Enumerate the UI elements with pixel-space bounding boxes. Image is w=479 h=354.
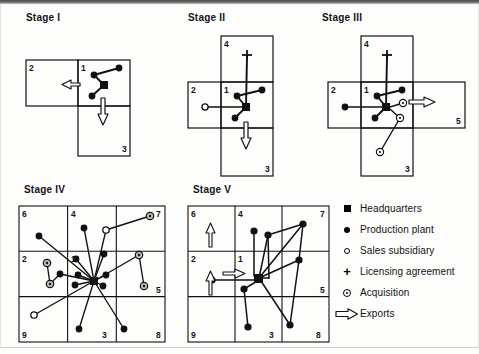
stage-3-plant-a <box>399 87 406 94</box>
stage-1-plant-c <box>89 93 96 100</box>
stage-3-plant-d <box>342 104 349 111</box>
stage-3-headquarters <box>382 103 390 111</box>
stage-5-panel: Stage V 6 4 7 2 1 5 9 3 8 <box>183 184 343 352</box>
stage-1-cell-2: 2 <box>29 63 34 73</box>
stage-4-acquisition-d <box>43 259 50 266</box>
stage-5-cell-8: 8 <box>316 330 321 340</box>
stage-5-cell-3: 3 <box>269 330 274 340</box>
stage-2-plant-a <box>259 87 266 94</box>
stage-5-title: Stage V <box>193 184 231 195</box>
stage-2-cell-1: 1 <box>224 85 229 95</box>
stage-4-links <box>34 216 150 329</box>
acquisition-icon <box>334 289 360 297</box>
figure-canvas: Stage I 2 1 3 <box>0 0 479 354</box>
stage-2-cell-4: 4 <box>224 39 229 49</box>
legend-item-licensing-agreement: + Licensing agreement <box>334 261 479 282</box>
stage-3-acquisition-c <box>376 148 383 155</box>
stage-5-plant-a <box>250 227 257 234</box>
stage-4-sales-subsidiary-b <box>31 312 37 318</box>
stage-4-plant-i <box>72 282 79 289</box>
stage-4-plant-j <box>76 326 83 333</box>
stage-3-cell-4: 4 <box>364 39 369 49</box>
stage-3-cell-3: 3 <box>405 164 410 174</box>
stage-5-plant-g <box>244 323 251 330</box>
stage-4-plant-h <box>75 272 82 279</box>
stage-2-plant-c <box>232 115 239 122</box>
stage-4-plant-a <box>81 225 88 232</box>
stage-3-plant-c <box>372 115 379 122</box>
legend-label-sales-subsidiary: Sales subsidiary <box>360 245 434 256</box>
stage-4-cell-2: 2 <box>22 254 27 264</box>
stage-1-plant-a <box>116 65 123 72</box>
stage-5-cell-6: 6 <box>191 209 196 219</box>
stage-5-cell-1: 1 <box>238 254 243 264</box>
stage-5-plant-c <box>299 220 306 227</box>
legend: Headquarters Production plant Sales subs… <box>334 198 479 324</box>
stage-5-diagram: 6 4 7 2 1 5 9 3 8 <box>183 202 343 352</box>
stage-4-acquisition-e <box>46 280 53 287</box>
stage-5-plant-d <box>295 256 302 263</box>
sales-subsidiary-icon <box>334 248 360 254</box>
stage-4-acquisition-c <box>140 282 147 289</box>
stage-5-cell-7: 7 <box>320 209 325 219</box>
stage-2-title: Stage II <box>188 12 225 23</box>
stage-4-plant-f <box>103 272 110 279</box>
stage-2-licensing-plus <box>242 50 252 60</box>
stage-3-diagram: 4 2 1 5 3 <box>310 30 475 182</box>
stage-4-acquisition-a <box>146 212 153 219</box>
stage-2-cell-2: 2 <box>191 85 196 95</box>
stage-1-headquarters <box>100 81 108 89</box>
stage-5-export-right <box>223 269 245 278</box>
stage-4-title: Stage IV <box>24 184 65 195</box>
stage-4-plant-g <box>100 283 107 290</box>
stage-1-diagram: 2 1 3 <box>18 30 148 175</box>
stage-5-plant-e <box>286 321 293 328</box>
legend-label-production-plant: Production plant <box>360 224 434 235</box>
stage-1-export-left <box>62 80 80 89</box>
stage-4-sales-subsidiary-a <box>103 227 109 233</box>
stage-3-panel: Stage III 4 2 1 5 3 <box>310 12 475 177</box>
stage-3-acquisition-b <box>396 114 403 121</box>
stage-3-cell-2: 2 <box>331 85 336 95</box>
stage-1-export-down <box>98 98 108 125</box>
stage-4-cell-7: 7 <box>156 209 161 219</box>
stage-2-sales-subsidiary <box>202 104 208 110</box>
stage-4-panel: Stage IV 6 4 7 2 1 5 9 3 8 <box>14 184 174 352</box>
stage-5-plant-f <box>240 285 247 292</box>
legend-label-licensing-agreement: Licensing agreement <box>360 266 455 277</box>
stage-2-headquarters <box>242 103 250 111</box>
headquarters-icon <box>334 205 360 212</box>
legend-item-exports: Exports <box>334 303 479 324</box>
stage-4-headquarters <box>90 277 98 285</box>
stage-5-export-up-a <box>206 223 215 247</box>
stage-4-cell-6: 6 <box>22 209 27 219</box>
stage-5-cell-2: 2 <box>191 254 196 264</box>
stage-3-acquisition-a <box>399 99 406 106</box>
stage-1-title: Stage I <box>26 12 60 23</box>
stage-3-plant-b <box>374 93 381 100</box>
stage-3-cell-5: 5 <box>456 116 461 126</box>
stage-4-diagram: 6 4 7 2 1 5 9 3 8 <box>14 202 174 352</box>
stage-2-panel: Stage II 4 2 1 3 <box>180 12 300 177</box>
stage-1-cell-3: 3 <box>122 144 127 154</box>
stage-4-cell-5: 5 <box>156 285 161 295</box>
legend-label-headquarters: Headquarters <box>360 203 422 214</box>
stage-2-cell-3: 3 <box>265 164 270 174</box>
stage-4-acquisition-b <box>135 251 142 258</box>
stage-4-cell-9: 9 <box>22 330 27 340</box>
stage-5-headquarters <box>254 274 263 283</box>
stage-4-plant-d <box>73 256 80 263</box>
licensing-agreement-icon: + <box>334 267 360 277</box>
stage-4-cell-3: 3 <box>102 330 107 340</box>
stage-4-plant-b <box>36 233 43 240</box>
stage-4-cell-4: 4 <box>71 209 76 219</box>
legend-item-sales-subsidiary: Sales subsidiary <box>334 240 479 261</box>
stage-5-cell-4: 4 <box>238 209 243 219</box>
stage-3-cell-1: 1 <box>364 85 369 95</box>
production-plant-icon <box>334 227 360 233</box>
stage-1-plant-b <box>91 72 98 79</box>
top-scan-band <box>0 0 479 4</box>
stage-2-plant-b <box>234 93 241 100</box>
stage-5-plant-b <box>264 231 271 238</box>
stage-4-plant-e <box>57 271 64 278</box>
